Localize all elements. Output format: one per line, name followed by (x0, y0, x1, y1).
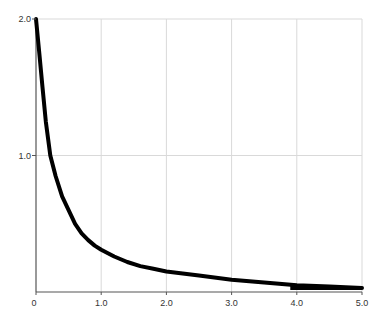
x-tick-label: 3.0 (225, 298, 238, 308)
y-tick-label: 2.0 (18, 14, 31, 24)
x-tick-label: 0 (31, 298, 36, 308)
line-chart: 01.02.03.04.05.0 1.02.0 (0, 0, 384, 322)
x-tick-label: 5.0 (356, 298, 369, 308)
x-tick-label: 1.0 (95, 298, 108, 308)
y-axis-ticks: 1.02.0 (18, 14, 36, 161)
data-curve (36, 19, 362, 288)
x-axis-ticks: 01.02.03.04.05.0 (31, 292, 368, 308)
x-tick-label: 2.0 (160, 298, 173, 308)
x-tick-label: 4.0 (291, 298, 304, 308)
grid-lines (36, 19, 362, 292)
y-tick-label: 1.0 (18, 151, 31, 161)
